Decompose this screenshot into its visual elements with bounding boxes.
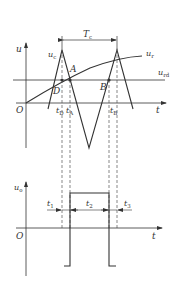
point-D-label: D [52, 86, 60, 96]
t1-label: t1 [47, 199, 54, 209]
upper-plot: u t O uc ur urd Tc A B D tD tA tB [13, 29, 170, 228]
threshold-label: urd [158, 68, 170, 78]
lower-plot: uo t O t1 t2 t3 [14, 182, 162, 276]
lower-t-label: t [152, 231, 156, 241]
lower-origin-label: O [16, 231, 24, 241]
carrier-wave [48, 50, 133, 148]
t2-label: t2 [86, 199, 93, 209]
upper-origin-label: O [16, 105, 24, 115]
point-B-label: B [99, 82, 107, 92]
upper-t-label: t [156, 105, 160, 115]
tB-label: tB [110, 106, 117, 116]
upper-u-label: u [16, 44, 22, 54]
period-label: Tc [83, 29, 92, 40]
point-B [107, 78, 110, 81]
pwm-timing-diagram: u t O uc ur urd Tc A B D tD tA tB uo t O… [0, 0, 180, 292]
carrier-label: uc [48, 50, 56, 60]
point-D [60, 78, 63, 81]
lower-u-label: uo [14, 183, 23, 193]
point-A-label: A [69, 64, 77, 74]
reference-label: ur [146, 49, 154, 59]
t3-label: t3 [124, 199, 131, 209]
point-A [68, 78, 71, 81]
tD-label: tD [56, 106, 64, 116]
